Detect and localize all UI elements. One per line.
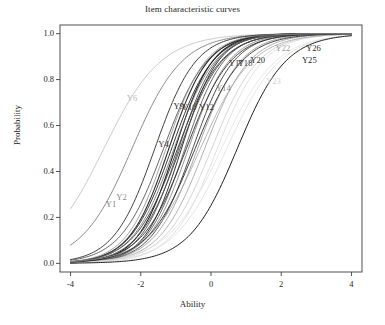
axis-ticks (56, 34, 351, 276)
plot-area: Y6Y4Y1Y2Y9Y10Y12Y14Y17Y18Y20Y23Y22Y26Y25 (0, 0, 385, 325)
icc-curve (71, 34, 352, 262)
curve-label: Y22 (276, 43, 291, 53)
curve-label: Y1 (106, 199, 117, 209)
icc-curve (71, 34, 352, 263)
icc-curve (71, 34, 352, 262)
icc-curve (71, 34, 352, 263)
icc-curve (71, 34, 352, 262)
icc-curves (71, 34, 352, 263)
icc-curve (71, 34, 352, 262)
icc-curve (71, 34, 352, 263)
icc-curve (71, 34, 352, 263)
icc-curve (71, 34, 352, 263)
icc-curve (71, 34, 352, 263)
icc-curve (71, 34, 352, 261)
curve-label: Y23 (266, 76, 281, 86)
icc-curve (71, 34, 352, 262)
icc-curve (71, 34, 352, 263)
chart-figure: Item characteristic curves Probability A… (0, 0, 385, 325)
curve-label: Y25 (302, 55, 317, 65)
curve-label: Y14 (216, 83, 232, 93)
icc-curve (71, 34, 352, 245)
icc-curve (71, 34, 352, 263)
icc-curve (71, 34, 352, 262)
curve-label: Y2 (116, 192, 127, 202)
icc-curve (71, 34, 352, 262)
icc-curve (71, 34, 352, 260)
curve-label: Y26 (306, 43, 322, 53)
icc-curve (71, 34, 352, 263)
curve-label: Y12 (199, 102, 214, 112)
icc-curve (71, 34, 352, 262)
curve-label: Y10 (182, 102, 197, 112)
icc-curve (71, 34, 352, 262)
curve-label: Y6 (127, 93, 138, 103)
curve-label: Y20 (250, 55, 265, 65)
curve-label: Y4 (158, 139, 169, 149)
